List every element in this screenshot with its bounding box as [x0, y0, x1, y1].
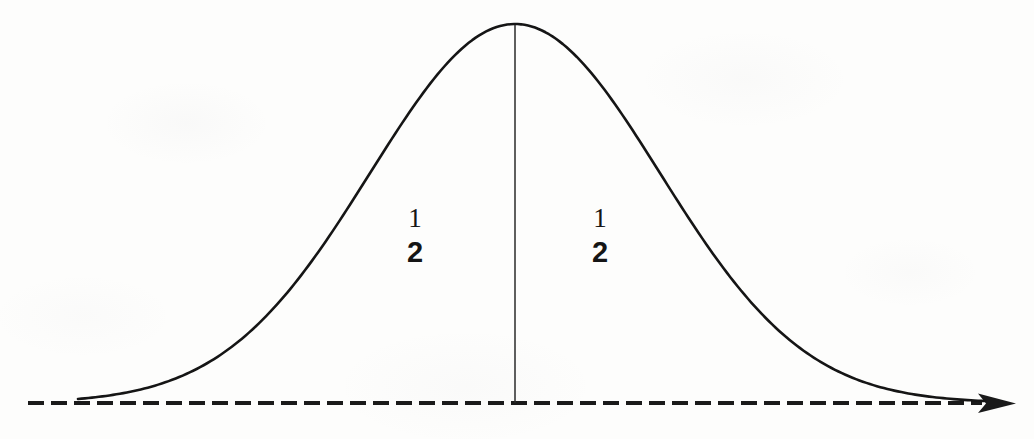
right-fraction-denominator: 2	[592, 235, 608, 267]
right-fraction-numerator: 1	[593, 205, 607, 235]
normal-distribution-curve	[78, 24, 985, 401]
horizontal-axis	[28, 394, 1016, 414]
left-area-fraction-label: 1 2	[395, 206, 435, 266]
figure-canvas	[0, 0, 1034, 439]
normal-curve-figure: 1 2 1 2	[0, 0, 1034, 439]
axis-arrowhead-icon	[978, 394, 1016, 414]
left-fraction-numerator: 1	[408, 205, 422, 235]
right-area-fraction-label: 1 2	[580, 206, 620, 266]
left-fraction-denominator: 2	[407, 235, 423, 267]
